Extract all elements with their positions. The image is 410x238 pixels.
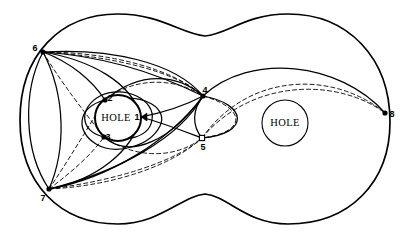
c-1-4-solid: [141, 96, 203, 117]
c-1-5-solid: [141, 117, 202, 138]
right-hole-label: HOLE: [270, 117, 300, 128]
peanut-boundary: [20, 14, 390, 224]
vertex-marker-8: [382, 110, 387, 115]
vertex-label-1: 1: [134, 112, 139, 122]
vertex-marker-7: [46, 186, 51, 191]
curves-layer: [29, 51, 385, 189]
vertex-label-6: 6: [32, 43, 37, 53]
c-7-5-dashed-a: [49, 138, 202, 189]
vertex-label-8: 8: [389, 109, 394, 119]
c-6-7-inner-solid: [43, 52, 61, 189]
left-hole-label: HOLE: [101, 112, 131, 123]
vertex-label-5: 5: [200, 142, 205, 152]
vertex-label-3: 3: [105, 132, 110, 142]
diagram-canvas: HOLEHOLE 12345678: [0, 0, 410, 238]
vertex-marker-6: [40, 49, 45, 54]
vertex-marker-5: [199, 135, 204, 140]
vertex-label-7: 7: [40, 193, 45, 203]
double-torus-curve-diagram: HOLEHOLE 12345678: [0, 0, 410, 238]
c-7-5-dashed-b: [49, 138, 202, 189]
outer-boundary-layer: [20, 14, 390, 224]
c-6-7-left-solid: [29, 52, 49, 189]
vertex-label-2: 2: [107, 93, 112, 103]
vertex-label-4: 4: [202, 85, 207, 95]
c-4-5-left-solid: [195, 96, 203, 138]
